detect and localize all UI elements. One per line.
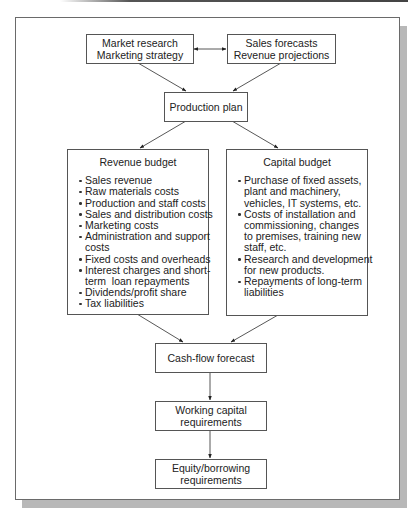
node-capital-budget: Capital budget Purchase of fixed assets,… [226, 149, 368, 316]
list-item: Raw materials costs [79, 186, 208, 197]
list-item-continuation: liabilities [238, 287, 367, 298]
node-label-line: Sales forecasts [246, 37, 318, 49]
list-item-continuation: staff, etc. [238, 242, 367, 253]
revenue-budget-title: Revenue budget [68, 157, 208, 168]
node-label-line: Market research [102, 37, 178, 49]
node-cash-flow-forecast: Cash-flow forecast [155, 343, 267, 373]
list-item-continuation: costs [79, 242, 208, 253]
node-label-line: Cash-flow forecast [168, 352, 255, 364]
node-label-line: Revenue projections [234, 49, 330, 61]
node-label-line: Production plan [170, 101, 243, 113]
node-sales-forecasts: Sales forecasts Revenue projections [227, 34, 336, 64]
node-working-capital: Working capital requirements [155, 401, 267, 431]
list-item-continuation: plant and machinery, [238, 186, 367, 197]
node-label-line: Equity/borrowing [172, 462, 250, 474]
node-revenue-budget: Revenue budget Sales revenue Raw materia… [67, 149, 209, 315]
node-label-line: Marketing strategy [97, 49, 183, 61]
node-equity-borrowing: Equity/borrowing requirements [155, 459, 267, 489]
revenue-budget-list: Sales revenue Raw materials costs Produc… [68, 175, 208, 309]
capital-budget-list: Purchase of fixed assets, plant and mach… [227, 175, 367, 298]
capital-budget-title: Capital budget [227, 157, 367, 168]
node-production-plan: Production plan [164, 92, 248, 122]
node-market-research: Market research Marketing strategy [86, 34, 194, 64]
node-label-line: Working capital [175, 404, 247, 416]
top-edge-line [60, 0, 408, 2]
list-item: Tax liabilities [79, 298, 208, 309]
node-label-line: requirements [180, 474, 241, 486]
node-label-line: requirements [180, 416, 241, 428]
